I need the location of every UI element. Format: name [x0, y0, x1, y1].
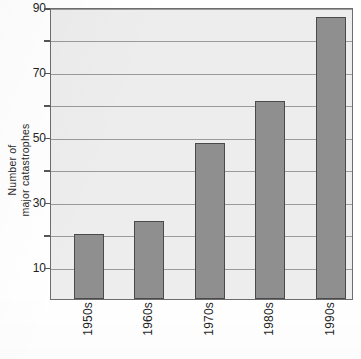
y-tick-label-30: 30	[20, 197, 46, 209]
bar-1970s	[195, 143, 225, 299]
bar-1960s	[134, 221, 164, 299]
gridline-50	[51, 139, 352, 140]
y-axis-tick-labels: 9070503010	[14, 0, 46, 300]
gridline-60	[51, 106, 352, 107]
y-axis-tick-40	[44, 170, 50, 172]
gridline-70	[51, 74, 352, 75]
y-axis-tick-10	[44, 268, 50, 270]
y-axis-tick-80	[44, 40, 50, 42]
x-tick-1970s: 1970s	[200, 302, 218, 358]
y-tick-label-10: 10	[20, 262, 46, 274]
x-tick-label-1950s: 1950s	[81, 302, 95, 336]
y-axis-tick-90	[44, 8, 50, 10]
y-tick-label-70: 70	[20, 67, 46, 79]
bar-chart: Number of major catastrophes 9070503010 …	[0, 0, 361, 359]
y-tick-label-50: 50	[20, 132, 46, 144]
y-axis-tick-70	[44, 73, 50, 75]
x-tick-1950s: 1950s	[79, 302, 97, 358]
gridline-90	[51, 9, 352, 10]
gridline-80	[51, 41, 352, 42]
y-tick-label-90: 90	[20, 2, 46, 14]
y-axis-tick-30	[44, 203, 50, 205]
y-axis-tick-20	[44, 235, 50, 237]
bar-1980s	[255, 101, 285, 299]
x-tick-1990s: 1990s	[321, 302, 339, 358]
x-axis-tick-labels: 1950s1960s1970s1980s1990s	[50, 302, 353, 359]
plot-area	[50, 8, 353, 300]
x-tick-label-1960s: 1960s	[141, 302, 155, 336]
bar-1990s	[316, 17, 346, 299]
x-tick-1960s: 1960s	[139, 302, 157, 358]
y-axis-tick-50	[44, 138, 50, 140]
x-tick-label-1980s: 1980s	[262, 302, 276, 336]
x-tick-1980s: 1980s	[260, 302, 278, 358]
bar-1950s	[74, 234, 104, 299]
x-tick-label-1990s: 1990s	[323, 302, 337, 336]
x-tick-label-1970s: 1970s	[202, 302, 216, 336]
y-axis-tick-60	[44, 105, 50, 107]
